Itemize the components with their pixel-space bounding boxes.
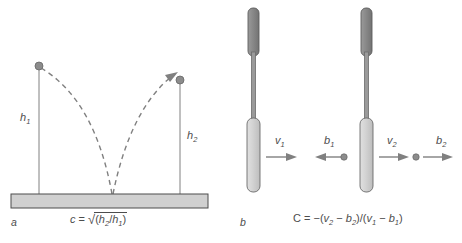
ball-impact-1 xyxy=(341,154,347,160)
formula-b-equals: = xyxy=(301,212,314,224)
label-b2: b2 xyxy=(436,135,446,149)
ball-drop-start xyxy=(35,62,43,70)
panel-a-letter: a xyxy=(11,216,17,228)
arrow-b2 xyxy=(423,153,453,161)
formula-b-lhs: C xyxy=(293,212,301,224)
arrow-b1 xyxy=(315,153,341,161)
formula-a-equals: = xyxy=(76,213,89,225)
label-b2-sub: 2 xyxy=(442,140,446,149)
formula-a-close: ) xyxy=(122,213,126,225)
racket-left-shaft xyxy=(252,52,256,122)
label-h1: h1 xyxy=(20,112,30,126)
racket-right-shaft xyxy=(365,52,369,122)
formula-a-radicand: (h2/h1) xyxy=(94,212,127,228)
racket-left xyxy=(247,8,260,192)
label-v1: v1 xyxy=(275,135,285,149)
ground-bar xyxy=(11,194,208,208)
label-v1-sub: 1 xyxy=(281,140,285,149)
dashed-rebound-path xyxy=(113,76,172,194)
label-h2: h2 xyxy=(187,130,197,144)
ball-rebound-end xyxy=(176,76,184,84)
label-b1: b1 xyxy=(324,135,334,149)
formula-restitution-velocities: C = −(v2 − b2)/(v1 − b1) xyxy=(293,212,403,227)
racket-right-head xyxy=(361,8,372,56)
label-h1-sub: 1 xyxy=(26,117,30,126)
racket-right xyxy=(360,8,373,192)
label-h2-sub: 2 xyxy=(193,135,197,144)
arrow-v2 xyxy=(379,153,409,161)
label-v2: v2 xyxy=(387,135,397,149)
formula-b-dash1: − xyxy=(333,212,346,224)
formula-b-close2: ) xyxy=(399,212,403,224)
panel-a-graphics xyxy=(0,0,231,243)
label-v2-sub: 2 xyxy=(393,140,397,149)
formula-a-radical-group: √(h2/h1) xyxy=(88,212,127,228)
panel-a-drop-test: h1 h2 a c = √(h2/h1) xyxy=(0,0,231,243)
dashed-fall-path xyxy=(41,68,112,194)
panel-b-graphics xyxy=(231,0,462,243)
panel-b-letter: b xyxy=(240,216,246,228)
racket-left-head xyxy=(248,8,259,56)
figure-root: h1 h2 a c = √(h2/h1) xyxy=(0,0,462,243)
ball-impact-2 xyxy=(413,154,419,160)
panel-b-racket-impact: v1 b1 v2 b2 b C = −(v2 − b2)/(v1 − b1) xyxy=(231,0,462,243)
formula-restitution-heights: c = √(h2/h1) xyxy=(70,212,127,228)
formula-b-dash2: − xyxy=(376,212,389,224)
label-b1-sub: 1 xyxy=(330,140,334,149)
arrow-v1 xyxy=(266,153,297,161)
racket-right-handle xyxy=(360,118,373,192)
racket-left-handle xyxy=(247,118,260,192)
